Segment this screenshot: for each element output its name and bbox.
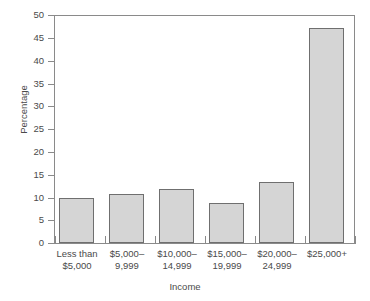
x-sep-6 — [355, 236, 356, 244]
y-tick-15 — [48, 175, 54, 176]
cropped-caption-artifact — [0, 0, 370, 6]
bar-chart-figure: 50 45 40 35 30 25 20 15 10 5 0 Percentag… — [0, 0, 370, 301]
y-tick-10 — [48, 198, 54, 199]
bar-10000-14999 — [159, 189, 194, 243]
y-tick-30 — [48, 106, 54, 107]
y-axis-title: Percentage — [18, 65, 29, 155]
x-sep-5 — [305, 236, 306, 244]
bar-15000-19999 — [209, 203, 244, 243]
bar-25000-plus — [309, 28, 344, 243]
y-tick-label-15: 15 — [4, 170, 44, 180]
x-sep-2 — [155, 236, 156, 244]
y-axis-line — [54, 15, 55, 244]
y-tick-25 — [48, 129, 54, 130]
y-tick-45 — [48, 38, 54, 39]
y-tick-35 — [48, 84, 54, 85]
x-label-20000-24999: $20,000– 24,999 — [251, 248, 303, 271]
x-sep-4 — [255, 236, 256, 244]
x-label-5000-9999: $5,000– 9,999 — [101, 248, 153, 271]
x-label-15000-19999: $15,000– 19,999 — [201, 248, 253, 271]
y-tick-50 — [48, 15, 54, 16]
y-tick-label-45: 45 — [4, 33, 44, 43]
y-tick-40 — [48, 61, 54, 62]
bar-20000-24999 — [259, 182, 294, 243]
x-label-10000-14999: $10,000– 14,999 — [151, 248, 203, 271]
x-sep-3 — [205, 236, 206, 244]
y-tick-label-0: 0 — [4, 238, 44, 248]
bar-5000-9999 — [109, 194, 144, 243]
y-tick-5 — [48, 220, 54, 221]
x-sep-0 — [55, 236, 56, 244]
x-label-less-than-5000: Less than $5,000 — [51, 248, 103, 271]
y-tick-20 — [48, 152, 54, 153]
y-tick-label-50: 50 — [4, 10, 44, 20]
x-label-25000-plus: $25,000+ — [301, 248, 353, 260]
x-axis-title: Income — [0, 281, 370, 292]
bar-less-than-5000 — [59, 198, 94, 243]
y-tick-label-10: 10 — [4, 193, 44, 203]
y-tick-0 — [48, 243, 54, 244]
x-sep-1 — [105, 236, 106, 244]
y-tick-label-5: 5 — [4, 215, 44, 225]
